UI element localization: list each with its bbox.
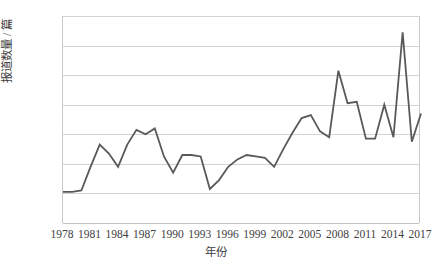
data-series-line [63, 16, 421, 223]
x-tick-label-2017: 2017 [402, 228, 432, 240]
x-axis-tick-labels: 1978198119841987199019931996199920022005… [0, 228, 432, 244]
plot-area [62, 16, 420, 223]
line-chart: 报道数量 / 篇 020406080100120140 197819811984… [0, 0, 432, 268]
gridline-0 [63, 223, 419, 224]
x-axis-title: 年份 [0, 243, 432, 259]
series-polyline [63, 32, 421, 192]
